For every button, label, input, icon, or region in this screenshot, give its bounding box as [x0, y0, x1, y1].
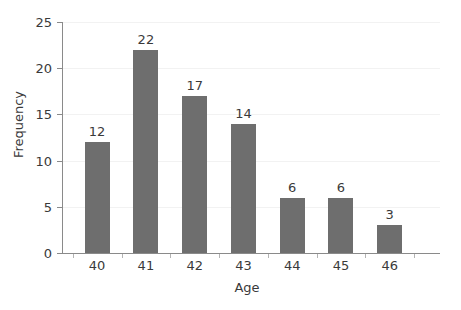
x-axis-tick-label: 44 [272, 259, 312, 272]
x-axis-tick-label: 41 [126, 259, 166, 272]
bar [280, 198, 305, 253]
bar [328, 198, 353, 253]
y-axis-tick-label: 20 [20, 62, 52, 75]
gridline [62, 22, 440, 23]
x-axis-title: Age [217, 281, 277, 294]
bar [85, 142, 110, 253]
y-axis-tick-mark [57, 161, 62, 162]
gridline [62, 68, 440, 69]
x-axis-tick-mark [122, 254, 123, 258]
x-axis-tick-mark [365, 254, 366, 258]
bar-chart-figure: 0510152025 40414243444546 12221714663 Ag… [0, 0, 461, 310]
x-axis-tick-mark [268, 254, 269, 258]
x-axis-tick-mark [317, 254, 318, 258]
y-axis-title: Frequency [12, 80, 25, 170]
x-axis-tick-label: 42 [175, 259, 215, 272]
bar [231, 124, 256, 253]
x-axis-tick-mark [414, 254, 415, 258]
bar-value-label: 6 [321, 181, 361, 194]
bar [377, 225, 402, 253]
bar-value-label: 14 [223, 107, 263, 120]
bar-value-label: 3 [370, 208, 410, 221]
bar-value-label: 6 [272, 181, 312, 194]
bar [133, 50, 158, 253]
x-axis-tick-label: 45 [321, 259, 361, 272]
y-axis-tick-label: 25 [20, 16, 52, 29]
y-axis-tick-label: 0 [20, 247, 52, 260]
x-axis-tick-mark [73, 254, 74, 258]
bar-value-label: 17 [175, 79, 215, 92]
y-axis-tick-mark [57, 68, 62, 69]
y-axis-tick-mark [57, 207, 62, 208]
x-axis-tick-label: 43 [223, 259, 263, 272]
x-axis-tick-label: 40 [77, 259, 117, 272]
y-axis-tick-label: 5 [20, 201, 52, 214]
x-axis-tick-label: 46 [370, 259, 410, 272]
bar [182, 96, 207, 253]
y-axis-tick-mark [57, 114, 62, 115]
bar-value-label: 22 [126, 33, 166, 46]
y-axis-spine [62, 22, 63, 254]
x-axis-tick-mark [219, 254, 220, 258]
bar-value-label: 12 [77, 125, 117, 138]
y-axis-tick-mark [57, 22, 62, 23]
x-axis-tick-mark [170, 254, 171, 258]
y-axis-tick-mark [57, 253, 62, 254]
x-axis-spine [62, 253, 440, 254]
